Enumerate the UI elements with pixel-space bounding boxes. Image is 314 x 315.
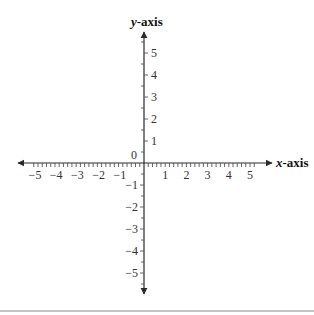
y-tick-label: 3	[151, 90, 157, 104]
x-tick-label: −2	[92, 168, 105, 182]
x-tick-label: 3	[205, 168, 211, 182]
x-axis-tick-labels: −5−4−3−2−112345	[29, 168, 253, 182]
x-tick-label: −4	[50, 168, 63, 182]
x-axis-title: x-axis	[275, 155, 309, 170]
origin-label: 0	[131, 148, 137, 162]
x-tick-label: 4	[226, 168, 232, 182]
y-axis-title: y-axis	[129, 14, 163, 29]
y-tick-label: −2	[125, 200, 138, 214]
x-tick-label: −3	[71, 168, 84, 182]
x-tick-label: 5	[247, 168, 253, 182]
y-tick-label: −4	[125, 244, 138, 258]
y-tick-label: 5	[151, 46, 157, 60]
y-tick-label: 2	[151, 112, 157, 126]
coordinate-plane-diagram: −5−4−3−2−112345 54321−1−2−3−4−5 0 y-axis…	[0, 0, 314, 315]
y-axis-suffix: -axis	[137, 14, 163, 29]
y-tick-label: 4	[151, 68, 157, 82]
y-tick-label: −1	[125, 178, 138, 192]
x-tick-label: −5	[29, 168, 42, 182]
x-axis-suffix: -axis	[283, 155, 309, 170]
x-tick-label: 2	[183, 168, 189, 182]
x-tick-label: 1	[162, 168, 168, 182]
y-tick-label: −5	[125, 266, 138, 280]
y-tick-label: −3	[125, 222, 138, 236]
y-tick-label: 1	[151, 134, 157, 148]
